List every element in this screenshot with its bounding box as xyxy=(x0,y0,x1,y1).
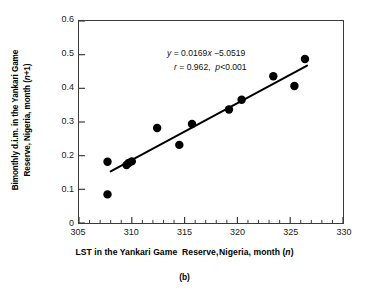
y-axis-tick-label: 0.4 xyxy=(44,82,74,92)
y-axis-title-line1: Bimonthly d.i.m. in the Yankari Game xyxy=(10,50,22,190)
x-axis-tick-label: 310 xyxy=(124,227,139,237)
x-axis-tick-label: 305 xyxy=(70,227,85,237)
y-axis-tick-label: 0.6 xyxy=(44,14,74,24)
data-point xyxy=(225,105,233,113)
data-point xyxy=(128,157,136,165)
y-axis-title: Bimonthly d.i.m. in the Yankari Game Res… xyxy=(0,0,44,240)
x-axis-title: LST in the Yankari Game Reserve, Nigeria… xyxy=(0,247,369,257)
plot-area: y = 0.0169x −5.0519 r = 0.962, p<0.001 xyxy=(78,20,344,224)
x-axis-tick-label: 320 xyxy=(230,227,245,237)
data-point xyxy=(269,72,277,80)
data-point xyxy=(103,190,111,198)
regression-statistics: r = 0.962, p<0.001 xyxy=(167,61,247,75)
y-axis-title-line2: Reserve, Nigeria, month (n+1) xyxy=(22,50,34,190)
data-point xyxy=(290,82,298,90)
data-point xyxy=(237,96,245,104)
x-axis-tick-labels: 305310315320325330 xyxy=(0,227,369,243)
x-axis-tick-label: 315 xyxy=(177,227,192,237)
figure-panel: Bimonthly d.i.m. in the Yankari Game Res… xyxy=(0,0,369,300)
data-point xyxy=(301,55,309,63)
panel-caption: (b) xyxy=(0,272,369,282)
regression-annotation: y = 0.0169x −5.0519 r = 0.962, p<0.001 xyxy=(167,47,247,74)
regression-line xyxy=(111,66,307,172)
data-point xyxy=(188,120,196,128)
data-point xyxy=(153,124,161,132)
y-axis-tick-label: 0.2 xyxy=(44,150,74,160)
x-axis-tick-label: 325 xyxy=(283,227,298,237)
regression-equation: y = 0.0169x −5.0519 xyxy=(167,47,247,61)
y-axis-tick-label: 0.1 xyxy=(44,184,74,194)
data-point xyxy=(103,158,111,166)
x-axis-tick-label: 330 xyxy=(336,227,351,237)
y-axis-tick-label: 0.5 xyxy=(44,48,74,58)
y-axis-tick-label: 0.3 xyxy=(44,116,74,126)
data-point xyxy=(175,141,183,149)
